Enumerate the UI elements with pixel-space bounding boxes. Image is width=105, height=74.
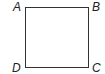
square-abcd: [25, 7, 89, 68]
vertex-label-d: D: [12, 62, 21, 74]
vertex-label-a: A: [13, 1, 21, 13]
vertex-label-c: C: [92, 62, 101, 74]
vertex-label-b: B: [92, 1, 100, 13]
